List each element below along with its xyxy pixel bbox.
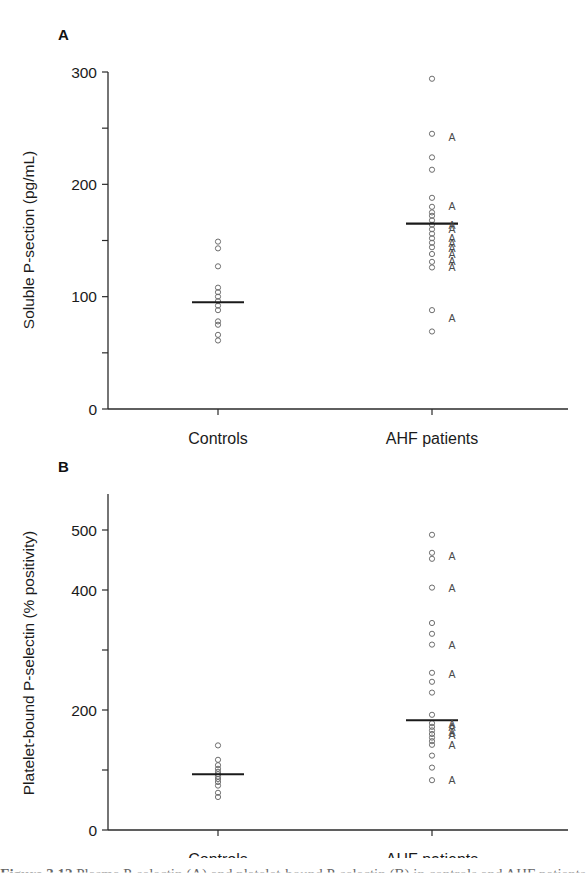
- x-category-label: Controls: [188, 851, 248, 858]
- data-point-circle: [429, 76, 434, 81]
- data-point-circle: [429, 251, 434, 256]
- data-point-letter-a: A: [448, 131, 455, 143]
- figure-caption: Figure 3.12 Plasma P-selectin (A) and pl…: [0, 866, 586, 888]
- data-point-letter-a: A: [448, 200, 455, 212]
- data-point-circle: [429, 690, 434, 695]
- data-point-circle: [429, 742, 434, 747]
- y-tick-label: 300: [71, 64, 97, 81]
- caption-text: Plasma P-selectin (A) and platelet-bound…: [76, 866, 585, 882]
- panel-b: B 0200400500Platelet-bound P-selectin (%…: [0, 458, 586, 858]
- data-point-circle: [429, 155, 434, 160]
- data-point-letter-a: A: [448, 582, 455, 594]
- x-category-label: Controls: [188, 430, 248, 447]
- data-point-circle: [429, 532, 434, 537]
- figure-page: A 0100200300Soluble P-section (pg/mL)Con…: [0, 0, 586, 888]
- caption-figure-number: Figure 3.12: [0, 866, 72, 882]
- y-tick-label: 100: [71, 288, 97, 305]
- data-point-circle: [429, 631, 434, 636]
- data-point-circle: [215, 264, 220, 269]
- y-tick-label: 0: [88, 401, 97, 418]
- data-point-letter-a: A: [448, 312, 455, 324]
- data-point-circle: [429, 308, 434, 313]
- data-point-circle: [429, 778, 434, 783]
- data-point-letter-a: A: [448, 774, 455, 786]
- data-point-circle: [429, 195, 434, 200]
- figure-caption-clip: Figure 3.12 Plasma P-selectin (A) and pl…: [0, 866, 586, 883]
- data-point-circle: [215, 338, 220, 343]
- y-tick-label: 200: [71, 702, 97, 719]
- data-point-circle: [215, 757, 220, 762]
- data-point-circle: [429, 131, 434, 136]
- data-point-letter-a: A: [448, 639, 455, 651]
- y-tick-label: 500: [71, 522, 97, 539]
- data-point-circle: [215, 332, 220, 337]
- data-point-circle: [429, 642, 434, 647]
- data-point-letter-a: A: [448, 550, 455, 562]
- data-point-circle: [429, 265, 434, 270]
- data-point-circle: [215, 783, 220, 788]
- data-point-letter-a: A: [448, 668, 455, 680]
- data-point-circle: [215, 743, 220, 748]
- data-point-letter-a: A: [448, 739, 455, 751]
- data-point-circle: [429, 204, 434, 209]
- data-point-circle: [429, 765, 434, 770]
- data-point-circle: [215, 239, 220, 244]
- panel-a-plot: 0100200300Soluble P-section (pg/mL)Contr…: [0, 24, 586, 454]
- x-category-label: AHF patients: [386, 430, 478, 447]
- y-tick-label: 200: [71, 176, 97, 193]
- panel-b-plot: 0200400500Platelet-bound P-selectin (% p…: [0, 458, 586, 858]
- data-point-circle: [215, 322, 220, 327]
- y-axis-title: Platelet-bound P-selectin (% positivity): [20, 531, 37, 795]
- data-point-circle: [429, 329, 434, 334]
- data-point-circle: [215, 246, 220, 251]
- data-point-circle: [429, 167, 434, 172]
- data-point-circle: [429, 259, 434, 264]
- data-point-circle: [429, 620, 434, 625]
- data-point-letter-a: A: [448, 261, 455, 273]
- data-point-circle: [429, 753, 434, 758]
- data-point-circle: [429, 712, 434, 717]
- y-tick-label: 0: [88, 822, 97, 839]
- y-axis-title: Soluble P-section (pg/mL): [20, 151, 37, 329]
- data-point-circle: [429, 585, 434, 590]
- data-point-circle: [429, 679, 434, 684]
- panel-a: A 0100200300Soluble P-section (pg/mL)Con…: [0, 24, 586, 454]
- x-category-label: AHF patients: [386, 851, 478, 858]
- data-point-circle: [429, 550, 434, 555]
- data-point-circle: [429, 670, 434, 675]
- y-tick-label: 400: [71, 582, 97, 599]
- data-point-circle: [429, 556, 434, 561]
